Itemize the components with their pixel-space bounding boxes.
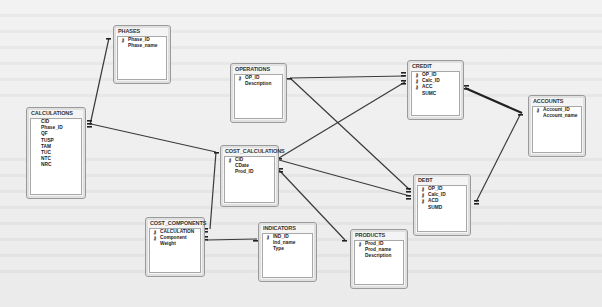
table-phases[interactable]: PHASES ⚷Phase_ID Phase_name — [113, 25, 171, 84]
table-products[interactable]: PRODUCTS ⚷Prod_ID Prod_name Description — [350, 229, 408, 289]
rel-operations-credit — [290, 76, 405, 78]
field-list: ⚷CALCULATION ⚷Component Weight — [149, 228, 201, 273]
table-operations[interactable]: OPERATIONS ⚷OP_ID Description — [230, 63, 287, 123]
table-cost-components[interactable]: COST_COMPONENTS ⚷CALCULATION ⚷Component … — [145, 217, 205, 277]
rel-costcomponents-indicators — [207, 239, 257, 240]
rel-debt-accounts — [476, 115, 520, 202]
field-row[interactable]: Description — [235, 81, 282, 87]
table-cost-calculations[interactable]: COST_CALCULATIONS ⚷CID CDate Prod_ID — [220, 145, 279, 207]
rel-costcalc-credit — [279, 82, 405, 158]
field-list: ⚷OP_ID Description — [234, 74, 283, 119]
field-row[interactable]: SUMD — [418, 205, 466, 211]
field-list: ⚷Phase_ID Phase_name — [117, 36, 167, 80]
field-list: ⚷Account_ID Account_name — [532, 106, 582, 153]
table-calculations[interactable]: CALCULATIONS CID Phase_ID QF TUSP TAM TU… — [26, 107, 86, 199]
table-title: COST_CALCULATIONS — [221, 146, 278, 155]
field-row[interactable]: Account_name — [533, 113, 581, 119]
field-row[interactable]: Weight — [150, 241, 200, 247]
table-title: CREDIT — [408, 61, 463, 70]
field-list: ⚷CID CDate Prod_ID — [224, 156, 275, 203]
table-debt[interactable]: DEBT ⚷OP_ID ⚷Calc_ID ⚷ACD SUMD — [413, 174, 471, 236]
field-row[interactable]: Type — [263, 246, 312, 252]
table-title: PRODUCTS — [351, 230, 407, 239]
rel-operations-debt — [290, 78, 410, 190]
table-accounts[interactable]: ACCOUNTS ⚷Account_ID Account_name — [528, 95, 586, 157]
table-title: INDICATORS — [259, 223, 316, 232]
table-title: CALCULATIONS — [27, 108, 85, 117]
field-list: ⚷OP_ID ⚷Calc_ID ⚷ACC SUMC — [411, 71, 460, 116]
table-title: OPERATIONS — [231, 64, 286, 73]
rel-phases-calculations — [90, 38, 109, 125]
field-row[interactable]: NRC — [31, 162, 81, 168]
table-indicators[interactable]: INDICATORS ⚷IND_ID Ind_name Type — [258, 222, 317, 282]
field-row[interactable]: Phase_name — [118, 43, 166, 49]
table-title: PHASES — [114, 26, 170, 35]
table-title: DEBT — [414, 175, 470, 184]
field-row[interactable]: Prod_ID — [225, 169, 274, 175]
field-list: ⚷Prod_ID Prod_name Description — [354, 240, 404, 285]
field-list: CID Phase_ID QF TUSP TAM TUC NTC NRC — [30, 118, 82, 195]
table-title: COST_COMPONENTS — [146, 218, 204, 227]
table-title: ACCOUNTS — [529, 96, 585, 105]
field-row[interactable]: SUMC — [412, 91, 459, 97]
table-credit[interactable]: CREDIT ⚷OP_ID ⚷Calc_ID ⚷ACC SUMC — [407, 60, 464, 120]
rel-calculations-costcalc — [91, 124, 216, 152]
rel-costcalc-costcomponents — [210, 152, 216, 229]
rel-credit-accounts — [465, 88, 522, 113]
field-row[interactable]: Description — [355, 253, 403, 259]
field-list: ⚷OP_ID ⚷Calc_ID ⚷ACD SUMD — [417, 185, 467, 232]
field-list: ⚷IND_ID Ind_name Type — [262, 233, 313, 278]
